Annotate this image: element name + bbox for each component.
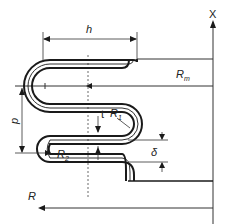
p-dimension: p: [8, 88, 50, 153]
mean-radius-arrow-icon: [86, 83, 92, 89]
p-label: p: [8, 118, 20, 125]
delta-label: δ: [151, 146, 158, 158]
bellows-diagram: h Rm X p R2 t R1 δ R: [0, 0, 227, 224]
axis-arrow-icon: [210, 20, 216, 28]
t-dimension: t: [95, 108, 104, 160]
radius-arrow-icon: [38, 205, 45, 211]
r2-label: R2: [57, 148, 69, 162]
corrugation-profile: [24, 59, 142, 181]
r1-label: R1: [110, 107, 122, 121]
h-label: h: [86, 23, 92, 35]
h-dimension: h: [43, 23, 137, 62]
delta-dimension: δ: [128, 132, 168, 172]
r-label: R: [28, 190, 36, 202]
x-axis: [210, 20, 216, 224]
t-label: t: [101, 108, 104, 120]
rm-label: Rm: [176, 68, 190, 82]
x-axis-label: X: [209, 8, 217, 20]
